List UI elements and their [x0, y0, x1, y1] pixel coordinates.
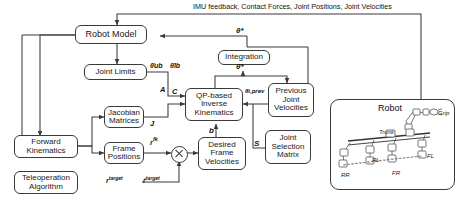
block-robot-model-label: Robot Model: [85, 30, 136, 40]
block-integration[interactable]: Integration: [218, 50, 270, 65]
robot-label-fr: FR: [392, 170, 400, 176]
block-joint-limits[interactable]: Joint Limits: [84, 64, 147, 80]
block-desired-frame-velocities[interactable]: Desired Frame Velocities: [198, 137, 246, 170]
robot-label-trunk: Trunk: [379, 129, 394, 135]
signal-theta-dot-prev: θ̇i,prev: [245, 88, 264, 94]
signal-r-target-sup: target: [109, 175, 123, 181]
robot-panel-title: Robot: [378, 103, 402, 113]
block-diagram-canvas: IMU feedback, Contact Forces, Joint Posi…: [0, 0, 461, 209]
signal-theta-dot-ub: θ̇ub: [150, 62, 162, 69]
block-joint-selection-matrix[interactable]: Joint Selection Matrix: [265, 130, 311, 164]
block-frame-positions-line2: Positions: [108, 153, 140, 161]
summing-junction: [171, 146, 188, 163]
block-teleoperation-algorithm[interactable]: Teleoperation Algorithm: [14, 171, 78, 194]
block-forward-kinematics[interactable]: Forward Kinematics: [14, 135, 78, 158]
robot-label-grip: Grip: [438, 110, 449, 116]
block-pjv-line3: Velocities: [274, 104, 308, 112]
signal-r-target: rtarget: [106, 175, 123, 184]
block-jacobian-line2: Matrices: [109, 117, 139, 125]
signal-theta-star-top: θ*: [236, 26, 244, 35]
signal-frame-position-fk-sup: fk: [153, 136, 158, 142]
block-qp-line3: Kinematics: [194, 109, 233, 117]
signal-theta-dot-lb: θ̇lb: [170, 62, 180, 69]
signal-matrix-c: C: [172, 87, 177, 96]
signal-rdot-target: ṙtarget: [143, 175, 160, 184]
block-dfv-line3: Velocities: [205, 158, 239, 166]
block-integration-label: Integration: [225, 53, 263, 61]
robot-label-fl: FL: [427, 153, 434, 159]
block-jsm-line3: Matrix: [277, 151, 299, 159]
block-joint-limits-label: Joint Limits: [95, 68, 135, 76]
robot-label-rr: RR: [341, 172, 350, 178]
block-previous-joint-velocities[interactable]: Previous Joint Velocities: [268, 83, 314, 117]
block-teleoperation-line2: Algorithm: [29, 183, 63, 191]
block-robot-model[interactable]: Robot Model: [75, 25, 147, 44]
signal-theta-dot-star: θ̇*: [236, 62, 244, 71]
block-qp-inverse-kinematics[interactable]: QP-based Inverse Kinematics: [185, 88, 243, 121]
signal-matrix-a: A: [160, 85, 165, 94]
feedback-bus-label: IMU feedback, Contact Forces, Joint Posi…: [193, 2, 392, 11]
block-jacobian-matrices[interactable]: Jacobian Matrices: [104, 106, 144, 128]
signal-frame-position-fk: rfk: [150, 136, 158, 147]
block-frame-positions[interactable]: Frame Positions: [104, 142, 144, 164]
block-forward-kinematics-line2: Kinematics: [26, 147, 65, 155]
signal-jacobian-j: J: [150, 119, 154, 128]
signal-rdot-target-sup: target: [146, 175, 160, 181]
robot-label-rl: RL: [372, 157, 380, 163]
signal-matrix-s: S: [254, 139, 259, 148]
signal-vector-b: b: [209, 126, 214, 135]
